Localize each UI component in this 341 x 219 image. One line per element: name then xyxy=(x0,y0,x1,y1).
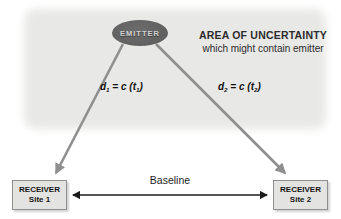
distance-equation-1: d1 = c (t1) xyxy=(100,81,143,93)
tdoa-geolocation-diagram: EMITTER AREA OF UNCERTAINTY which might … xyxy=(0,0,341,219)
receiver-site-2-box: RECEIVER Site 2 xyxy=(273,180,328,210)
area-of-uncertainty-subtitle: which might contain emitter xyxy=(190,42,336,55)
receiver-site-1-box: RECEIVER Site 1 xyxy=(12,180,67,210)
d1-equals-c-t: = c (t xyxy=(110,81,136,92)
d2-equals-c-t: = c (t xyxy=(228,81,254,92)
area-of-uncertainty-title: AREA OF UNCERTAINTY xyxy=(190,29,336,42)
receiver-2-site: Site 2 xyxy=(290,195,311,206)
area-of-uncertainty-caption: AREA OF UNCERTAINTY which might contain … xyxy=(190,29,336,55)
receiver-1-site: Site 1 xyxy=(29,195,50,206)
receiver-2-label: RECEIVER xyxy=(280,185,321,196)
d1-close-paren: ) xyxy=(139,81,142,92)
baseline-label: Baseline xyxy=(70,174,270,186)
emitter-to-receiver1-arrow xyxy=(56,44,123,173)
receiver-1-label: RECEIVER xyxy=(19,185,60,196)
emitter-node: EMITTER xyxy=(112,20,168,46)
distance-equation-2: d2 = c (t2) xyxy=(218,81,261,93)
d2-close-paren: ) xyxy=(257,81,260,92)
emitter-label: EMITTER xyxy=(120,29,160,38)
emitter-to-receiver2-arrow xyxy=(156,44,285,173)
